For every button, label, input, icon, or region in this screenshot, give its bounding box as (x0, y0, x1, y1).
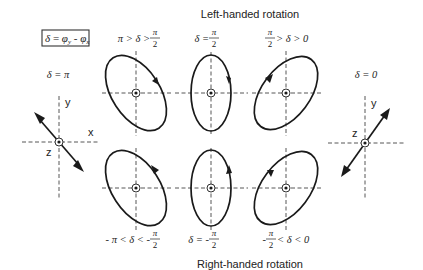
svg-text:2: 2 (153, 240, 158, 250)
label-bottom-1: - π < δ < - π 2 (106, 228, 160, 250)
svg-text:π: π (268, 27, 273, 37)
svg-text:2: 2 (212, 39, 217, 49)
title-right-handed: Right-handed rotation (197, 258, 303, 270)
svg-text:π: π (153, 228, 158, 238)
ellipse-bottom-3: - π 2 < δ < 0 (242, 140, 331, 250)
axis-label-x: x (88, 126, 94, 138)
label-delta-zero: δ = 0 (355, 69, 378, 80)
label-bottom-2: δ = - π 2 (188, 228, 219, 250)
polarization-diagram: Left-handed rotation Right-handed rotati… (0, 0, 423, 270)
svg-text:δ =: δ = (194, 33, 209, 44)
linear-polarization-left: δ = π y x z (22, 69, 98, 198)
label-delta-pi: δ = π (47, 69, 70, 80)
svg-text:π: π (153, 27, 158, 37)
ellipse-top-3: π 2 > δ > 0 (242, 27, 331, 141)
label-top-2: δ = π 2 (194, 27, 219, 49)
svg-text:δ = φy - φx: δ = φy - φx (45, 32, 90, 46)
svg-text:-: - (263, 234, 267, 245)
svg-text:< δ < 0: < δ < 0 (277, 234, 310, 245)
svg-text:> δ > 0: > δ > 0 (276, 33, 309, 44)
linear-polarization-right: δ = 0 y z (328, 69, 404, 198)
axis-label-y: y (65, 96, 71, 108)
arrowhead-icon (73, 160, 84, 172)
svg-text:- π < δ < -: - π < δ < - (106, 234, 151, 245)
rotation-arrow-icon (267, 170, 274, 177)
svg-text:2: 2 (269, 240, 274, 250)
arrowhead-icon (380, 108, 390, 120)
arrowhead-icon (341, 165, 351, 177)
definition-box: δ = φy - φx (42, 30, 90, 46)
ellipse-top-2: δ = π 2 (175, 27, 248, 135)
svg-text:2: 2 (268, 39, 273, 49)
title-left-handed: Left-handed rotation (201, 8, 299, 20)
ellipse-top-1: π > δ > π 2 (93, 27, 179, 141)
ellipse-bottom-1: - π < δ < - π 2 (93, 140, 179, 250)
label-bottom-3: - π 2 < δ < 0 (263, 228, 310, 250)
svg-text:δ = -: δ = - (188, 234, 209, 245)
svg-text:π: π (212, 228, 217, 238)
svg-text:π > δ >: π > δ > (118, 33, 150, 44)
axis-label-z: z (352, 127, 358, 139)
axis-label-y: y (371, 97, 377, 109)
svg-text:2: 2 (153, 39, 158, 49)
label-top-3: π 2 > δ > 0 (265, 27, 309, 49)
label-top-1: π > δ > π 2 (118, 27, 160, 49)
axis-label-z: z (46, 146, 52, 158)
ellipse-bottom-2: δ = - π 2 (175, 148, 248, 250)
arrowhead-icon (34, 112, 45, 124)
svg-text:π: π (212, 27, 217, 37)
svg-text:π: π (269, 228, 274, 238)
svg-text:2: 2 (212, 240, 217, 250)
